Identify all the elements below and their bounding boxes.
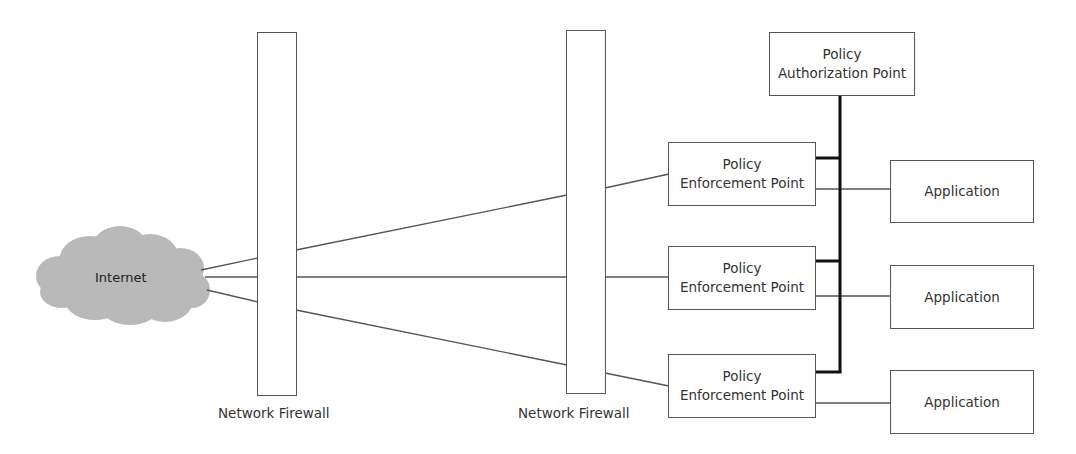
pap-line2: Authorization Point: [778, 64, 906, 83]
policy-enforcement-point-2: Policy Enforcement Point: [668, 246, 816, 310]
policy-enforcement-point-3: Policy Enforcement Point: [668, 354, 816, 418]
pep-1-line1: Policy: [723, 155, 762, 174]
pep-2-line1: Policy: [723, 259, 762, 278]
pap-line1: Policy: [823, 45, 862, 64]
application-1-label: Application: [924, 182, 999, 201]
policy-authorization-point: Policy Authorization Point: [769, 32, 915, 96]
pep-2-line2: Enforcement Point: [680, 278, 804, 297]
policy-bus: [815, 95, 842, 372]
network-firewall-2-label: Network Firewall: [518, 405, 630, 421]
network-firewall-1: [257, 32, 297, 396]
network-firewall-1-label: Network Firewall: [218, 405, 330, 421]
pep-3-line2: Enforcement Point: [680, 386, 804, 405]
pep-3-line1: Policy: [723, 367, 762, 386]
application-1: Application: [890, 160, 1034, 223]
network-firewall-2: [566, 30, 606, 394]
application-3-label: Application: [924, 393, 999, 412]
policy-enforcement-point-1: Policy Enforcement Point: [668, 142, 816, 206]
internet-label: Internet: [95, 270, 147, 285]
application-2: Application: [890, 265, 1034, 329]
application-2-label: Application: [924, 288, 999, 307]
application-3: Application: [890, 370, 1034, 434]
pep-1-line2: Enforcement Point: [680, 174, 804, 193]
